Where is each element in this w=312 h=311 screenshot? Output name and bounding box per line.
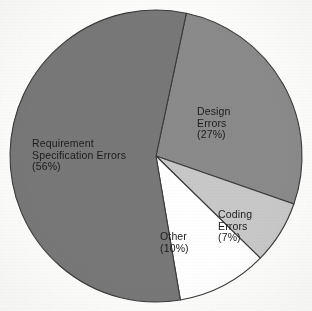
pie-label-other: Other(10%): [160, 231, 189, 254]
pie-label-line: Other: [160, 231, 189, 243]
pie-chart: DesignErrors(27%)CodingErrors(7%)Other(1…: [0, 0, 312, 311]
pie-label-design-errors: DesignErrors(27%): [197, 106, 231, 141]
pie-label-line: Coding: [218, 209, 252, 221]
pie-label-line: (10%): [160, 243, 189, 255]
pie-label-line: Design: [197, 106, 231, 118]
pie-label-coding-errors: CodingErrors(7%): [218, 209, 252, 244]
pie-label-line: (27%): [197, 129, 231, 141]
pie-label-line: Requirement: [32, 138, 126, 150]
pie-label-line: (7%): [218, 232, 252, 244]
pie-label-requirement-specification-errors: RequirementSpecification Errors(56%): [32, 138, 126, 173]
pie-label-line: (56%): [32, 161, 126, 173]
